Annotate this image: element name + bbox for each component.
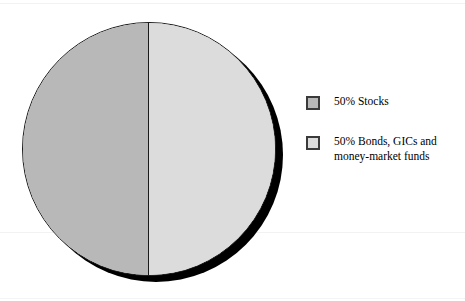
legend-label-bonds: 50% Bonds, GICs and money-market funds <box>334 134 437 164</box>
legend-swatch-stocks-icon <box>306 96 320 110</box>
legend-item-stocks[interactable]: 50% Stocks <box>306 94 456 110</box>
legend-swatch-bonds-icon <box>306 136 320 150</box>
pie-slice-stocks[interactable] <box>23 23 149 275</box>
scan-artifact-line-bottom <box>0 298 465 299</box>
legend-item-bonds[interactable]: 50% Bonds, GICs and money-market funds <box>306 134 456 164</box>
legend: 50% Stocks 50% Bonds, GICs and money-mar… <box>306 94 456 188</box>
pie-chart <box>20 12 284 280</box>
scan-artifact-line-top <box>0 3 465 4</box>
chart-canvas: 50% Stocks 50% Bonds, GICs and money-mar… <box>0 0 465 301</box>
legend-label-stocks: 50% Stocks <box>334 94 389 109</box>
pie-disc <box>22 22 276 276</box>
pie-slice-bonds[interactable] <box>149 23 275 275</box>
pie-slice-divider <box>148 23 149 275</box>
